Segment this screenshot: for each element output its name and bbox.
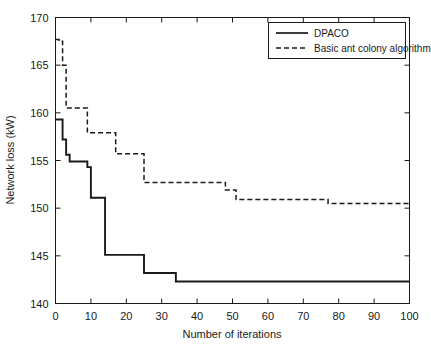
x-tick-label: 70	[297, 310, 309, 322]
x-tick-label: 80	[333, 310, 345, 322]
x-tick-label: 30	[156, 310, 168, 322]
y-axis-title: Network loss (kW)	[4, 115, 16, 204]
x-tick-label: 0	[52, 310, 58, 322]
x-tick-label: 20	[120, 310, 132, 322]
y-tick-label: 145	[30, 250, 48, 262]
legend-label-dpaco: DPACO	[314, 28, 349, 39]
y-tick-label: 155	[30, 155, 48, 167]
y-tick-label: 170	[30, 12, 48, 24]
x-tick-label: 50	[226, 310, 238, 322]
x-tick-label: 90	[368, 310, 380, 322]
y-tick-label: 140	[30, 298, 48, 310]
x-axis-title: Number of iterations	[182, 328, 282, 340]
chart-figure: 140145150155160165170 010203040506070809…	[0, 0, 431, 352]
y-tick-label: 150	[30, 202, 48, 214]
x-tick-label: 40	[191, 310, 203, 322]
y-tick-label: 160	[30, 107, 48, 119]
legend-label-basic-ant-colony: Basic ant colony algorithm	[314, 43, 431, 54]
x-tick-label: 60	[262, 310, 274, 322]
y-tick-label: 165	[30, 59, 48, 71]
x-tick-label: 100	[400, 310, 418, 322]
x-tick-label: 10	[85, 310, 97, 322]
network-loss-convergence-chart: 140145150155160165170 010203040506070809…	[0, 0, 431, 352]
